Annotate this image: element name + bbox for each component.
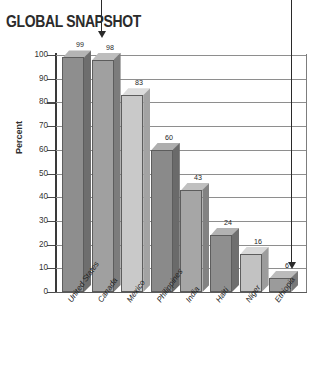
bar-mexico	[121, 88, 150, 292]
bar-front-face	[62, 57, 84, 292]
plot-right-border	[306, 54, 307, 292]
y-tick-60	[47, 150, 55, 151]
pointer-to-first-bar-arrowhead	[98, 31, 106, 38]
y-tick-80	[47, 102, 55, 103]
y-tick-40	[47, 197, 55, 198]
y-tick-30	[47, 221, 55, 222]
bar-value-label: 24	[212, 218, 244, 227]
bar-value-label: 16	[241, 237, 273, 246]
bar-front-face	[180, 190, 202, 292]
y-tick-label-80: 80	[39, 96, 48, 106]
bar-value-label: 60	[153, 133, 185, 142]
chart-plot-area: 0102030405060708090100 999883604324166 U…	[0, 0, 324, 371]
bar-front-face	[92, 60, 114, 292]
y-tick-label-50: 50	[39, 168, 48, 178]
bar-side-face	[114, 53, 121, 292]
y-tick-10	[47, 268, 55, 269]
bar-side-face	[143, 88, 150, 292]
bar-value-label: 43	[182, 173, 214, 182]
pointer-to-first-bar-line	[101, 0, 102, 32]
y-tick-90	[47, 79, 55, 80]
y-tick-label-40: 40	[39, 191, 48, 201]
y-tick-0	[47, 292, 55, 293]
bar-front-face	[121, 95, 143, 292]
bar-side-face	[232, 228, 239, 292]
bar-value-label: 98	[93, 43, 125, 52]
bar-side-face	[84, 50, 91, 292]
y-tick-50	[47, 174, 55, 175]
bar-front-face	[210, 235, 232, 292]
bar-haiti	[210, 228, 239, 292]
y-tick-label-60: 60	[39, 144, 48, 154]
bar-side-face	[262, 247, 269, 292]
y-tick-20	[47, 245, 55, 246]
y-tick-label-10: 10	[39, 262, 48, 272]
y-tick-label-90: 90	[39, 73, 48, 83]
bar-india	[180, 183, 209, 292]
y-axis-title: Percent	[14, 121, 24, 154]
bar-value-label: 83	[123, 78, 155, 87]
y-tick-100	[47, 55, 55, 56]
y-tick-label-70: 70	[39, 120, 48, 130]
y-tick-label-20: 20	[39, 239, 48, 249]
y-tick-70	[47, 126, 55, 127]
bar-front-face	[151, 150, 173, 292]
bar-value-label: 99	[64, 40, 96, 49]
bar-united-states	[62, 50, 91, 292]
y-tick-label-30: 30	[39, 215, 48, 225]
pointer-to-last-bar-line	[291, 0, 292, 264]
chart-page: GLOBAL SNAPSHOT 0102030405060708090100 9…	[0, 0, 324, 371]
bar-side-face	[202, 183, 209, 292]
pointer-to-last-bar-arrowhead	[288, 262, 296, 269]
y-tick-label-0: 0	[43, 286, 48, 296]
y-tick-label-100: 100	[34, 49, 48, 59]
bar-canada	[92, 53, 121, 292]
